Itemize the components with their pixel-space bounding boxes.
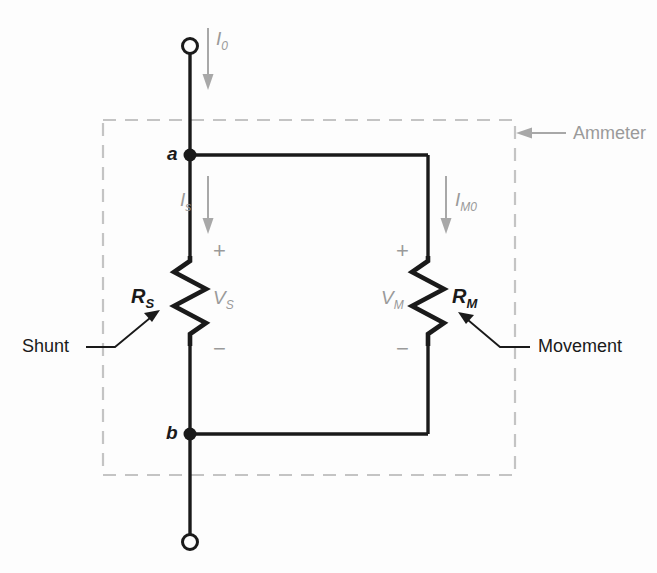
movement-voltage-subscript: M	[394, 298, 404, 312]
circuit-diagram-figure: a b I0 Is IM0 RS + VS − RM + VM − Shunt …	[0, 0, 657, 573]
shunt-resistor-symbol: R	[131, 285, 145, 307]
total-current-arrow-head	[203, 74, 214, 90]
movement-leader-line	[468, 320, 530, 347]
shunt-voltage-label: VS	[213, 288, 234, 311]
ammeter-leader-arrowhead	[516, 128, 532, 139]
shunt-current-label: Is	[180, 190, 191, 213]
movement-minus-sign: −	[396, 338, 409, 360]
movement-callout-label: Movement	[538, 337, 622, 355]
shunt-current-subscript: s	[185, 200, 191, 214]
shunt-voltage-subscript: S	[226, 298, 234, 312]
shunt-resistor-zigzag	[174, 256, 206, 346]
movement-plus-sign: +	[396, 240, 409, 262]
shunt-plus-sign: +	[213, 240, 226, 262]
shunt-leader-line	[86, 318, 150, 347]
shunt-callout-label: Shunt	[22, 337, 69, 355]
movement-resistor-subscript: M	[466, 296, 477, 311]
movement-resistor-zigzag	[412, 256, 444, 346]
shunt-current-arrow-head	[203, 218, 214, 234]
movement-voltage-symbol: V	[381, 287, 394, 308]
movement-resistor-label: RM	[452, 286, 477, 310]
movement-resistor-symbol: R	[452, 285, 466, 307]
shunt-resistor-subscript: S	[145, 296, 154, 311]
shunt-minus-sign: −	[213, 338, 226, 360]
top-terminal-circle	[183, 39, 198, 54]
movement-current-subscript: M0	[460, 200, 477, 214]
total-current-label: I0	[216, 29, 228, 52]
ammeter-callout-label: Ammeter	[573, 124, 646, 142]
node-a-label: a	[167, 144, 178, 163]
node-b-label: b	[166, 423, 178, 442]
bottom-terminal-circle	[183, 535, 198, 550]
movement-voltage-label: VM	[381, 288, 404, 311]
shunt-resistor-label: RS	[131, 286, 154, 310]
movement-current-arrow-head	[441, 218, 452, 234]
total-current-subscript: 0	[221, 39, 228, 53]
circuit-schematic-svg	[0, 0, 657, 573]
shunt-voltage-symbol: V	[213, 287, 226, 308]
movement-current-label: IM0	[455, 190, 477, 213]
